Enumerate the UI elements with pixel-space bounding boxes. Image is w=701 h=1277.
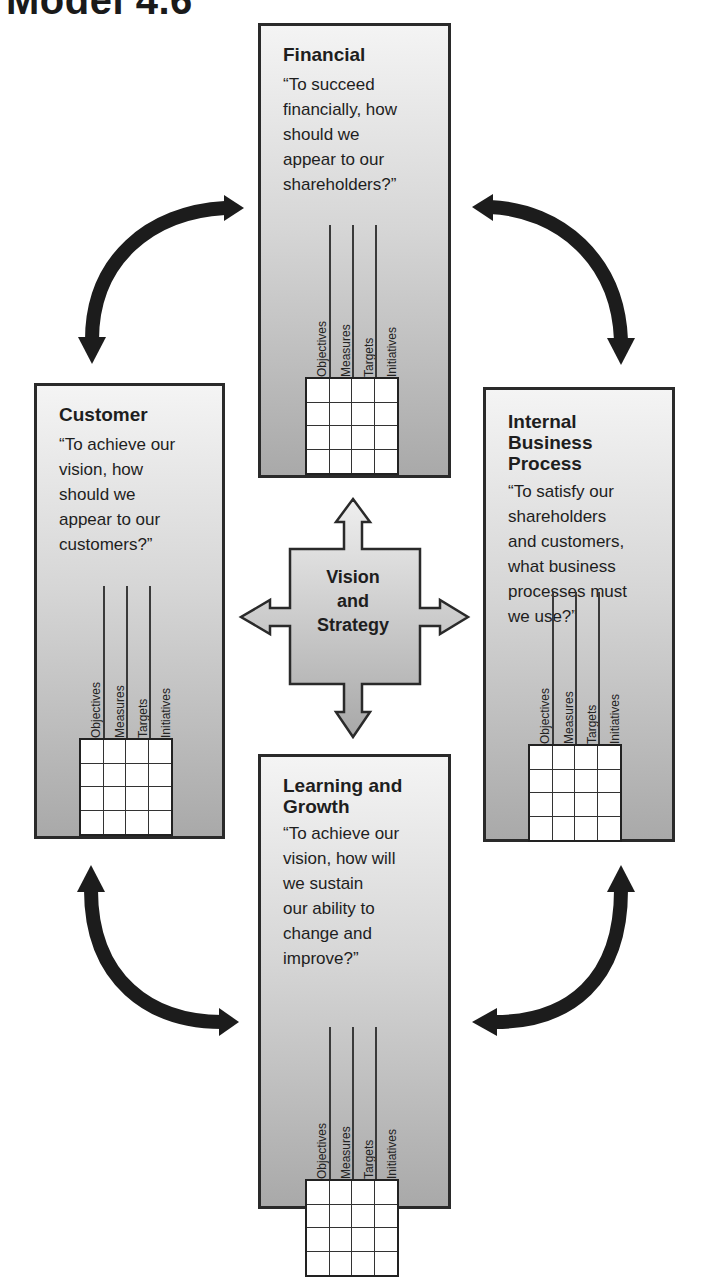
column-measures: Measures [339, 1126, 353, 1179]
cycle-arrow-top-left-icon [78, 195, 244, 364]
vision-and-strategy-label: Vision and Strategy [305, 565, 401, 637]
scorecard-grid [79, 738, 173, 836]
panel-question: “To succeed financially, how should we a… [283, 72, 397, 197]
column-initiatives: Initiatives [385, 1129, 399, 1179]
column-initiatives: Initiatives [385, 327, 399, 377]
panel-title: Financial [283, 44, 365, 65]
scorecard-table: Objectives Measures Targets Initiatives [79, 586, 223, 836]
cycle-arrow-top-right-icon [472, 194, 635, 365]
column-objectives: Objectives [538, 688, 552, 744]
panel-title: Learning and Growth [283, 775, 402, 817]
panel-title: Internal Business Process [508, 411, 592, 474]
panel-customer: Customer “To achieve our vision, how sho… [34, 383, 225, 839]
panel-learning-and-growth: Learning and Growth “To achieve our visi… [258, 754, 451, 1209]
cycle-arrow-bottom-right-icon [472, 865, 635, 1036]
column-targets: Targets [362, 338, 376, 377]
scorecard-table: Objectives Measures Targets Initiatives [305, 225, 449, 475]
column-targets: Targets [136, 699, 150, 738]
scorecard-table: Objectives Measures Targets Initiatives [305, 1027, 449, 1277]
column-measures: Measures [339, 324, 353, 377]
scorecard-grid [305, 377, 399, 475]
scorecard-grid [528, 744, 622, 842]
column-measures: Measures [113, 685, 127, 738]
column-objectives: Objectives [315, 321, 329, 377]
cycle-arrow-bottom-left-icon [77, 865, 239, 1036]
scorecard-grid [305, 1179, 399, 1277]
panel-title: Customer [59, 404, 148, 425]
column-measures: Measures [562, 691, 576, 744]
scorecard-table: Objectives Measures Targets Initiatives [528, 592, 672, 842]
panel-financial: Financial “To succeed financially, how s… [258, 23, 451, 478]
column-objectives: Objectives [89, 682, 103, 738]
column-targets: Targets [362, 1140, 376, 1179]
column-initiatives: Initiatives [159, 688, 173, 738]
panel-internal-business-process: Internal Business Process “To satisfy ou… [483, 387, 675, 842]
column-objectives: Objectives [315, 1123, 329, 1179]
column-initiatives: Initiatives [608, 694, 622, 744]
panel-question: “To achieve our vision, how should we ap… [59, 432, 175, 557]
panel-question: “To achieve our vision, how will we sust… [283, 821, 399, 971]
column-targets: Targets [585, 705, 599, 744]
